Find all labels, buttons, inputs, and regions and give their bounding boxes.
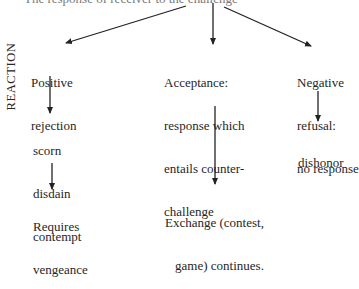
vengeance-outcome: Requires vengeance on the part of origin… — [33, 191, 133, 289]
text-line: vengeance — [33, 263, 133, 277]
arrow-to-negative-refusal — [224, 7, 311, 46]
text-line: game) continues. — [165, 259, 264, 273]
text-line: Negative — [297, 76, 359, 90]
exchange-outcome: Exchange (contest, game) continues. — [165, 187, 264, 288]
text-line: Exchange (contest, — [165, 216, 264, 230]
text-line: Acceptance: — [164, 76, 245, 90]
arrow-to-positive-rejection — [66, 6, 186, 43]
text-line: Requires — [33, 220, 133, 234]
text-line: scorn — [33, 144, 81, 158]
text-line: Positive — [31, 76, 76, 90]
dishonor-outcome: dishonor — [298, 127, 344, 185]
text-line: entails counter- — [164, 162, 245, 176]
text-line: dishonor — [298, 156, 344, 170]
text-line: response which — [164, 119, 245, 133]
